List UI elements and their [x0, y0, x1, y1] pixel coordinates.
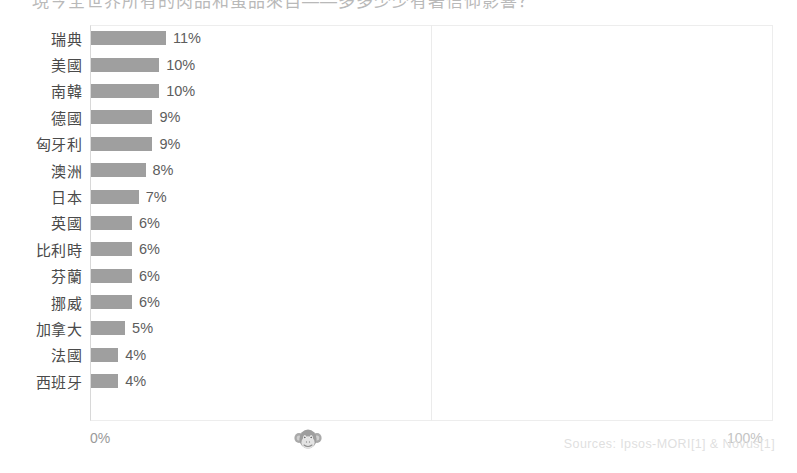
- bar-value-label: 11%: [173, 30, 201, 46]
- bar-rows: 瑞典11%美國10%南韓10%德國9%匈牙利9%澳洲8%日本7%英國6%比利時6…: [0, 25, 797, 394]
- bar-value-label: 6%: [139, 241, 160, 257]
- bar-and-value: 10%: [91, 84, 195, 98]
- bar: [91, 348, 118, 362]
- bar-row: 匈牙利9%: [0, 131, 797, 157]
- bar-row: 美國10%: [0, 51, 797, 77]
- bar-category-label: 德國: [0, 107, 82, 128]
- bar-category-label: 挪威: [0, 292, 82, 313]
- bar: [91, 216, 132, 230]
- bar-row: 芬蘭6%: [0, 263, 797, 289]
- bar-row: 澳洲8%: [0, 157, 797, 183]
- bar-and-value: 6%: [91, 216, 160, 230]
- bar-row: 德國9%: [0, 104, 797, 130]
- bar: [91, 321, 125, 335]
- bar-row: 英國6%: [0, 210, 797, 236]
- bar-and-value: 9%: [91, 137, 180, 151]
- page-title: 現今全世界所有的肉品和蛋品來自——多多少少有著信仰影響？: [32, 0, 536, 12]
- bar-category-label: 南韓: [0, 80, 82, 101]
- bar-value-label: 10%: [166, 83, 195, 99]
- bar-value-label: 6%: [139, 294, 160, 310]
- sources-note: Sources: Ipsos-MORI[1] & Novus[1]: [564, 437, 775, 451]
- bar-value-label: 7%: [146, 189, 167, 205]
- bar-and-value: 6%: [91, 295, 160, 309]
- bar-row: 南韓10%: [0, 78, 797, 104]
- bar-and-value: 7%: [91, 190, 167, 204]
- bar-value-label: 5%: [132, 320, 153, 336]
- bar: [91, 190, 139, 204]
- bar-and-value: 6%: [91, 242, 160, 256]
- bar: [91, 110, 152, 124]
- bar-row: 日本7%: [0, 183, 797, 209]
- bar-value-label: 6%: [139, 215, 160, 231]
- bar-value-label: 9%: [159, 136, 180, 152]
- bar: [91, 58, 159, 72]
- bar-and-value: 4%: [91, 348, 146, 362]
- bar-and-value: 6%: [91, 269, 160, 283]
- bar-category-label: 澳洲: [0, 160, 82, 181]
- bar-chart: 瑞典11%美國10%南韓10%德國9%匈牙利9%澳洲8%日本7%英國6%比利時6…: [0, 18, 797, 418]
- bar-and-value: 5%: [91, 321, 153, 335]
- bar-and-value: 8%: [91, 163, 174, 177]
- bar: [91, 163, 146, 177]
- bar-row: 比利時6%: [0, 236, 797, 262]
- bar-row: 瑞典11%: [0, 25, 797, 51]
- bar: [91, 242, 132, 256]
- axis-tick-min: 0%: [90, 430, 110, 446]
- bar-and-value: 10%: [91, 58, 195, 72]
- bar-value-label: 6%: [139, 268, 160, 284]
- bar-and-value: 9%: [91, 110, 180, 124]
- bar-category-label: 芬蘭: [0, 265, 82, 286]
- cropped-title-strip: 現今全世界所有的肉品和蛋品來自——多多少少有著信仰影響？: [0, 0, 797, 14]
- bar-category-label: 瑞典: [0, 28, 82, 49]
- bar-row: 加拿大5%: [0, 315, 797, 341]
- bar-and-value: 11%: [91, 31, 201, 45]
- bar-row: 法國4%: [0, 342, 797, 368]
- bar-row: 西班牙4%: [0, 368, 797, 394]
- bar-value-label: 4%: [125, 347, 146, 363]
- bar-and-value: 4%: [91, 374, 146, 388]
- bar-category-label: 法國: [0, 344, 82, 365]
- bar-category-label: 加拿大: [0, 318, 82, 339]
- bar-value-label: 4%: [125, 373, 146, 389]
- bar-category-label: 日本: [0, 186, 82, 207]
- bar: [91, 374, 118, 388]
- bar-row: 挪威6%: [0, 289, 797, 315]
- bar-category-label: 西班牙: [0, 371, 82, 392]
- bar-category-label: 英國: [0, 212, 82, 233]
- bar-category-label: 比利時: [0, 239, 82, 260]
- monkey-face-icon: [293, 427, 323, 453]
- bar: [91, 295, 132, 309]
- bar: [91, 137, 152, 151]
- bar-value-label: 8%: [153, 162, 174, 178]
- bar-category-label: 匈牙利: [0, 133, 82, 154]
- bar-value-label: 9%: [159, 109, 180, 125]
- bar: [91, 84, 159, 98]
- bar: [91, 269, 132, 283]
- bar: [91, 31, 166, 45]
- bar-value-label: 10%: [166, 57, 195, 73]
- bar-category-label: 美國: [0, 54, 82, 75]
